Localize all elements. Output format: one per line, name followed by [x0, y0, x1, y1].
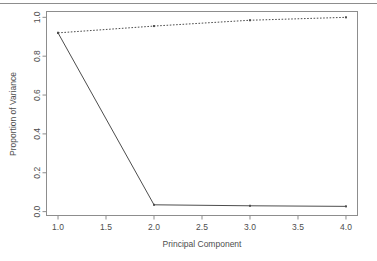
data-point-marker — [249, 205, 251, 207]
x-axis-title: Principal Component — [163, 239, 243, 249]
y-tick-label: 1.0 — [32, 11, 42, 23]
y-axis-title: Proportion of Variance — [8, 72, 18, 156]
x-tick-label: 1.0 — [52, 222, 64, 232]
x-tick-label: 2.5 — [196, 222, 208, 232]
y-tick-label: 0.4 — [32, 128, 42, 140]
plot-panel-border — [47, 12, 358, 216]
figure-container: 1.01.52.02.53.03.54.0 0.00.20.40.60.81.0… — [0, 0, 377, 261]
x-tick-label: 1.5 — [100, 222, 112, 232]
series-line-1 — [58, 17, 346, 33]
y-tick-label: 0.2 — [32, 167, 42, 179]
x-tick-label: 3.0 — [244, 222, 256, 232]
x-axis-ticks — [58, 216, 346, 220]
x-tick-label: 4.0 — [340, 222, 352, 232]
data-point-marker — [249, 19, 251, 21]
series-line-0 — [58, 33, 346, 207]
scree-plot: 1.01.52.02.53.03.54.0 0.00.20.40.60.81.0… — [0, 0, 377, 261]
data-point-marker — [153, 25, 155, 27]
data-series-layer — [57, 16, 347, 207]
y-axis-ticks — [43, 17, 47, 211]
x-tick-label: 3.5 — [292, 222, 304, 232]
data-point-marker — [57, 32, 59, 34]
y-tick-label: 0.6 — [32, 89, 42, 101]
data-point-marker — [345, 16, 347, 18]
data-point-marker — [153, 204, 155, 206]
y-axis-tick-labels: 0.00.20.40.60.81.0 — [32, 11, 42, 217]
y-tick-label: 0.8 — [32, 50, 42, 62]
data-point-marker — [345, 205, 347, 207]
x-tick-label: 2.0 — [148, 222, 160, 232]
x-axis-tick-labels: 1.01.52.02.53.03.54.0 — [52, 222, 352, 232]
y-tick-label: 0.0 — [32, 205, 42, 217]
